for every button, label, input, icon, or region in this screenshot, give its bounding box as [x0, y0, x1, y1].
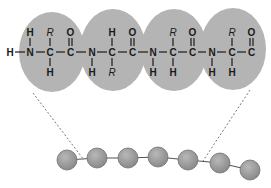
r1-n-h: H [26, 27, 33, 38]
zoom-line-left [33, 93, 84, 160]
bead-1 [57, 150, 77, 170]
r4-c-o: O [248, 27, 256, 38]
r4-ca: C [228, 47, 235, 58]
r1-c: C [67, 47, 74, 58]
r2-ca-top: H [108, 27, 115, 38]
bead-4 [148, 147, 168, 167]
bead-5 [178, 150, 198, 170]
zoom-line-right [203, 90, 250, 161]
r2-c: C [129, 47, 136, 58]
r4-ca-top: R [228, 27, 235, 38]
r1-c-o: O [67, 27, 75, 38]
r2-ca: C [108, 47, 115, 58]
r4-c: C [248, 47, 255, 58]
r2-n: N [88, 47, 95, 58]
r1-n: N [26, 47, 33, 58]
r3-c: C [189, 47, 196, 58]
r3-c-o: O [189, 27, 197, 38]
r2-n-h: H [88, 67, 95, 78]
peptide-diagram: H H N R C H O C N H H C R O C N H R C H … [0, 0, 271, 188]
bead-6 [210, 153, 230, 173]
n-terminal-h: H [6, 47, 13, 58]
r2-c-o: O [129, 27, 137, 38]
r1-ca-bottom: H [46, 67, 53, 78]
bead-2 [87, 148, 107, 168]
r2-ca-bottom: R [108, 67, 115, 78]
r1-ca-top: R [46, 27, 53, 38]
r4-n: N [208, 47, 215, 58]
r4-n-h: H [208, 67, 215, 78]
bead-chain [57, 147, 260, 180]
bead-3 [118, 148, 138, 168]
r1-ca: C [46, 47, 53, 58]
r3-ca-top: R [169, 27, 176, 38]
r3-ca-bottom: H [169, 67, 176, 78]
r3-n: N [149, 47, 156, 58]
r3-ca: C [169, 47, 176, 58]
r4-ca-bottom: H [228, 67, 235, 78]
bead-7 [240, 160, 260, 180]
r3-n-h: H [149, 67, 156, 78]
